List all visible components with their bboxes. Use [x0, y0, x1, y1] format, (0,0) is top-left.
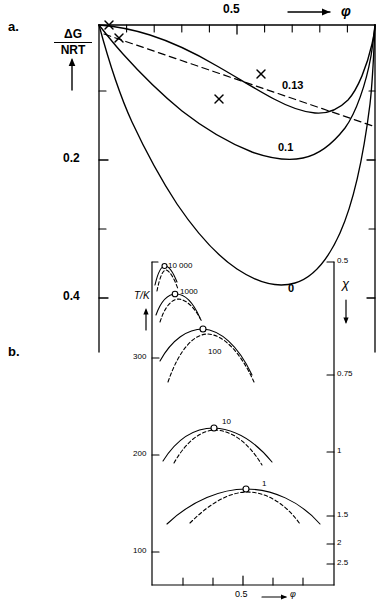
spinodal-100	[168, 334, 254, 382]
curve-label-100: 100	[208, 348, 221, 356]
chi-tick-1: 1	[337, 447, 341, 455]
figure-svg	[0, 0, 383, 606]
chi-arrow	[343, 300, 348, 324]
chi-tick-2.5: 2.5	[337, 559, 348, 567]
chi-tick-1.5: 1.5	[337, 511, 348, 519]
panel-letter-b: b.	[8, 345, 20, 358]
y-tick-300: 300	[133, 353, 146, 361]
y-tick-100: 100	[133, 547, 146, 555]
y-tick-0.2: 0.2	[63, 152, 80, 164]
binodal-10	[163, 428, 272, 462]
y-axis-label-panel-b: T/K	[134, 291, 150, 301]
figure-container: a. b. ΔG NRT φ 0.5 0.2 0.4 0.13 0.1 0 T/…	[0, 0, 383, 606]
common-tangent-dashed	[104, 34, 373, 126]
curve-label-1: 1	[262, 480, 266, 488]
x-axis-label-panel-b: φ	[290, 590, 296, 599]
curve-chi-0.13	[99, 25, 375, 113]
y-axis-numerator: ΔG	[54, 28, 92, 43]
panel-letter-a: a.	[8, 20, 19, 33]
T-arrow	[143, 308, 148, 330]
chi-tick-2: 2	[337, 539, 341, 547]
curve-label-1000: 1000	[180, 288, 198, 296]
right-axis-label-chi: χ	[342, 277, 349, 290]
y-axis-label-panel-a: ΔG NRT	[54, 28, 92, 58]
curve-label-0: 0	[288, 283, 294, 294]
chi-tick-0.75: 0.75	[337, 370, 353, 378]
curve-label-0.1: 0.1	[278, 142, 293, 153]
y-tick-200: 200	[133, 450, 146, 458]
curve-label-10: 10	[222, 418, 231, 426]
y-axis-denominator: NRT	[54, 43, 92, 58]
curve-label-10000: 10 000	[168, 262, 192, 270]
deltaG-arrow	[69, 58, 76, 90]
phi-arrow-b	[262, 595, 287, 600]
binodal-1	[167, 489, 320, 524]
x-tick-0.5-panel-b: 0.5	[235, 590, 248, 599]
curve-chi-0	[99, 25, 375, 285]
x-axis-label-panel-a: φ	[341, 4, 351, 18]
spinodal-10000	[157, 270, 178, 291]
chi-tick-0.5: 0.5	[337, 257, 348, 265]
panel-b-axes	[152, 262, 334, 585]
phi-arrow-a	[288, 9, 330, 16]
y-tick-0.4: 0.4	[63, 290, 80, 302]
critical-points	[162, 264, 249, 493]
x-tick-0.5-panel-a: 0.5	[223, 3, 240, 15]
curve-label-0.13: 0.13	[282, 80, 303, 91]
